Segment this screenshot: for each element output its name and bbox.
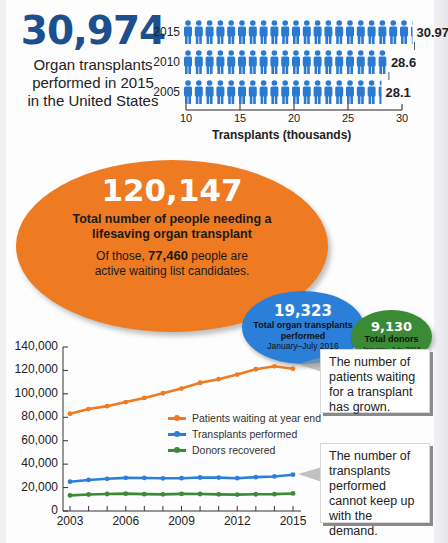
pictogram-year-label: 2005 xyxy=(146,85,180,99)
pictogram-chart: Transplants (thousands) 201530.97201028.… xyxy=(0,0,448,140)
transplants-2016-label: Total organ transplants xyxy=(253,320,352,331)
needing-line: Total number of people needing a xyxy=(72,212,271,227)
pictogram-value-label: 28.1 xyxy=(385,85,410,100)
legend-label: Transplants performed xyxy=(192,428,297,440)
legend-item-transplants: Transplants performed xyxy=(168,426,321,442)
pictogram-year-label: 2015 xyxy=(146,25,180,39)
note-suffix: people are xyxy=(191,249,248,263)
y-axis-tick-label: 20,000 xyxy=(2,480,58,494)
pictogram-x-tick: 15 xyxy=(228,112,252,124)
y-axis-tick-label: 140,000 xyxy=(2,339,58,353)
line-chart-legend: Patients waiting at year end Transplants… xyxy=(168,410,321,458)
needing-description: Total number of people needing a lifesav… xyxy=(72,212,271,242)
y-axis-tick-label: 120,000 xyxy=(2,362,58,376)
pictogram-x-axis-label: Transplants (thousands) xyxy=(212,128,351,142)
x-axis-tick-label: 2015 xyxy=(273,514,313,528)
pictogram-plot xyxy=(0,0,448,140)
note-line2: active waiting list candidates. xyxy=(95,264,250,279)
callout-waiting-grown: The number of patients waiting for a tra… xyxy=(320,349,430,413)
legend-item-waiting: Patients waiting at year end xyxy=(168,410,321,426)
pictogram-x-tick: 25 xyxy=(336,112,360,124)
legend-item-donors: Donors recovered xyxy=(168,442,321,458)
legend-swatch-orange xyxy=(168,417,186,420)
needing-line: lifesaving organ transplant xyxy=(72,227,271,242)
legend-label: Donors recovered xyxy=(192,444,275,456)
note-prefix: Of those, xyxy=(96,249,145,263)
pictogram-x-tick: 30 xyxy=(390,112,414,124)
y-axis-tick-label: 40,000 xyxy=(2,456,58,470)
legend-label: Patients waiting at year end xyxy=(192,412,321,424)
waiting-list-note: Of those, 77,460 people are active waiti… xyxy=(95,248,250,279)
donors-2016-number: 9,130 xyxy=(371,319,412,334)
waiting-list-number: 77,460 xyxy=(148,248,188,263)
x-axis-tick-label: 2006 xyxy=(106,514,146,528)
legend-swatch-green xyxy=(168,449,186,452)
callout-transplants-demand: The number of transplants performed cann… xyxy=(320,443,430,523)
y-axis-tick-label: 60,000 xyxy=(2,433,58,447)
pictogram-value-label: 30.97 xyxy=(416,25,448,40)
needing-number: 120,147 xyxy=(101,172,242,208)
y-axis-tick-label: 100,000 xyxy=(2,386,58,400)
transplants-2016-number: 19,323 xyxy=(274,303,332,320)
pictogram-value-label: 28.6 xyxy=(391,55,416,70)
legend-swatch-blue xyxy=(168,433,186,436)
pictogram-x-tick: 20 xyxy=(282,112,306,124)
x-axis-tick-label: 2012 xyxy=(217,514,257,528)
x-axis-tick-label: 2003 xyxy=(50,514,90,528)
x-axis-tick-label: 2009 xyxy=(162,514,202,528)
pictogram-year-label: 2010 xyxy=(146,55,180,69)
pictogram-x-tick: 10 xyxy=(174,112,198,124)
y-axis-tick-label: 80,000 xyxy=(2,409,58,423)
infographic-page: 30,974 Organ transplants performed in 20… xyxy=(0,0,448,543)
